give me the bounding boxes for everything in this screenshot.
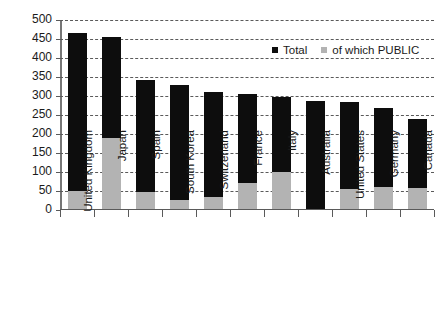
x-axis-label-text: United States — [354, 130, 366, 199]
x-axis-label-text: Italy — [286, 130, 298, 151]
y-tick-label: 50 — [12, 183, 52, 197]
x-axis-labels: United KingdomJapanSpainSouth KoreaSwitz… — [60, 220, 434, 315]
x-axis-label: Germany — [388, 130, 402, 220]
x-axis-label: Switzerland — [218, 130, 232, 220]
x-axis-label-text: Australia — [320, 130, 332, 175]
y-tick-label: 250 — [12, 107, 52, 121]
x-axis-label-text: Germany — [388, 130, 400, 177]
x-axis-label: United States — [354, 130, 368, 220]
x-axis-label: Australia — [320, 130, 334, 220]
legend-item[interactable]: of which PUBLIC — [321, 44, 419, 56]
x-axis-label: Spain — [150, 130, 164, 220]
legend-label: Total — [283, 44, 307, 56]
x-axis-label: Canada — [422, 130, 436, 220]
x-axis-label-text: United Kingdom — [82, 130, 94, 212]
bar-chart: Percentage of GDP 0501001502002503003504… — [0, 0, 444, 315]
x-axis-label-text: South Korea — [184, 130, 196, 194]
y-tick-label: 350 — [12, 69, 52, 83]
legend-label: of which PUBLIC — [332, 44, 419, 56]
legend-item[interactable]: Total — [272, 44, 307, 56]
y-tick-label: 0 — [12, 202, 52, 216]
y-tick-label: 300 — [12, 88, 52, 102]
y-tick-label: 400 — [12, 50, 52, 64]
x-axis-label-text: Spain — [150, 130, 162, 159]
x-axis-label-text: France — [252, 130, 264, 166]
x-axis-label-text: Switzerland — [218, 130, 230, 189]
x-tick-mark — [60, 210, 61, 217]
y-tick-label: 150 — [12, 145, 52, 159]
x-axis-label-text: Japan — [116, 130, 128, 161]
legend-swatch-public-icon — [321, 47, 327, 53]
legend-swatch-total-icon — [272, 47, 278, 53]
x-axis-label-text: Canada — [422, 130, 434, 170]
y-tick-label: 100 — [12, 164, 52, 178]
y-tick-label: 200 — [12, 126, 52, 140]
x-axis-label: Japan — [116, 130, 130, 220]
x-axis-label: United Kingdom — [82, 130, 96, 220]
x-axis-label: Italy — [286, 130, 300, 220]
x-axis-label: South Korea — [184, 130, 198, 220]
y-tick-label: 500 — [12, 12, 52, 26]
x-axis-label: France — [252, 130, 266, 220]
chart-legend: Totalof which PUBLIC — [272, 44, 419, 56]
y-tick-label: 450 — [12, 31, 52, 45]
